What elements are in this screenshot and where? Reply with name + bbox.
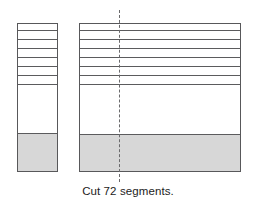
wide-bar <box>79 23 241 172</box>
wide-bar-striped-zone <box>80 24 240 92</box>
cut-position-dashed-line <box>119 10 120 182</box>
shaded-zone-divider <box>18 133 57 134</box>
narrow-bar-shaded-zone <box>18 133 57 172</box>
cut-line <box>80 30 240 31</box>
cut-line <box>18 84 57 85</box>
cut-line <box>80 39 240 40</box>
cut-line <box>18 75 57 76</box>
narrow-bar-plain-zone <box>18 92 57 133</box>
narrow-bar-striped-zone <box>18 24 57 92</box>
diagram-canvas: Cut 72 segments. <box>0 0 256 205</box>
shaded-zone-divider <box>80 134 240 135</box>
cut-line <box>80 75 240 76</box>
cut-line <box>18 57 57 58</box>
cut-line <box>80 66 240 67</box>
wide-bar-shaded-zone <box>80 134 240 172</box>
cut-line <box>18 48 57 49</box>
narrow-bar <box>17 23 58 172</box>
cut-line <box>18 39 57 40</box>
wide-bar-plain-zone <box>80 92 240 134</box>
cut-line <box>18 66 57 67</box>
caption-text: Cut 72 segments. <box>0 185 256 198</box>
cut-line <box>80 48 240 49</box>
cut-line <box>80 84 240 85</box>
cut-line <box>18 30 57 31</box>
cut-line <box>80 57 240 58</box>
